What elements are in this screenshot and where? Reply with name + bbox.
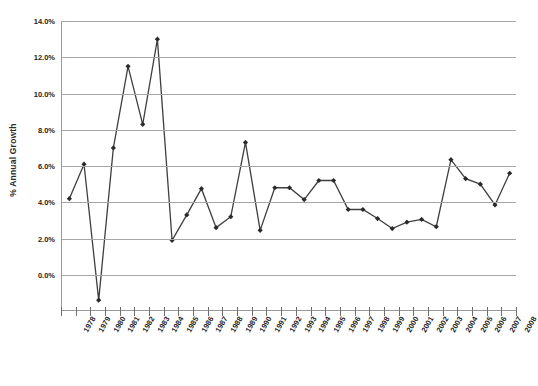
- y-axis-tick-label: 4.0%: [38, 198, 55, 207]
- series-line: [69, 39, 509, 300]
- x-axis-tick-label: 1995: [331, 315, 347, 334]
- y-axis-tick-label: 8.0%: [38, 125, 55, 134]
- gridline: [62, 275, 516, 276]
- x-axis-tick-label: 2008: [522, 315, 538, 334]
- data-point-marker: [199, 186, 204, 191]
- x-axis-tick-label: 1989: [243, 315, 259, 334]
- x-axis-tick-label: 1986: [199, 315, 215, 334]
- x-axis-tick-label: 1984: [170, 315, 186, 334]
- gridline: [62, 94, 516, 95]
- y-axis-tick-label: 12.0%: [34, 53, 55, 62]
- x-axis-tick-label: 1978: [82, 315, 98, 334]
- x-axis-tick-label: 1981: [126, 315, 142, 334]
- x-axis-tick-label: 1980: [111, 315, 127, 334]
- data-point-marker: [434, 224, 439, 229]
- y-axis-tick-label: 2.0%: [38, 234, 55, 243]
- y-axis-tick-labels: 0.0%2.0%4.0%6.0%8.0%10.0%12.0%14.0%: [24, 0, 58, 320]
- x-axis-tick-labels: 1978197919801981198219831984198519861987…: [61, 313, 516, 383]
- y-axis-tick-label: 0.0%: [38, 270, 55, 279]
- plot-area: [61, 21, 516, 311]
- y-axis-tick-label: 10.0%: [34, 89, 55, 98]
- data-point-marker: [67, 196, 72, 201]
- gridline: [62, 57, 516, 58]
- x-axis-tick-label: 1994: [317, 315, 333, 334]
- data-point-marker: [184, 212, 189, 217]
- x-axis-tick-label: 1990: [258, 315, 274, 334]
- data-point-marker: [125, 64, 130, 69]
- gridline: [62, 21, 516, 22]
- data-point-marker: [507, 171, 512, 176]
- y-axis-tick-label: 14.0%: [34, 17, 55, 26]
- y-axis-tick-label: 6.0%: [38, 162, 55, 171]
- x-axis-tick-label: 2007: [507, 315, 523, 334]
- data-point-marker: [243, 140, 248, 145]
- y-axis-title-label: % Annual Growth: [8, 123, 18, 197]
- x-axis-tick-label: 1982: [140, 315, 156, 334]
- x-axis-tick-label: 2001: [419, 315, 435, 334]
- gridline: [62, 202, 516, 203]
- data-point-marker: [272, 185, 277, 190]
- x-axis-tick-label: 1991: [272, 315, 288, 334]
- x-axis-tick-label: 1988: [228, 315, 244, 334]
- x-axis-tick-label: 2005: [478, 315, 494, 334]
- gridline: [62, 239, 516, 240]
- x-axis-tick-label: 1983: [155, 315, 171, 334]
- data-point-marker: [404, 220, 409, 225]
- gridline: [62, 130, 516, 131]
- x-axis-tick-label: 1987: [214, 315, 230, 334]
- x-axis-tick-label: 1979: [96, 315, 112, 334]
- gridline: [62, 166, 516, 167]
- x-axis-tick-label: 1998: [375, 315, 391, 334]
- x-axis-tick-label: 1997: [361, 315, 377, 334]
- data-point-marker: [419, 217, 424, 222]
- y-axis-title: % Annual Growth: [2, 0, 24, 320]
- data-point-marker: [140, 122, 145, 127]
- x-axis-tick-label: 2000: [405, 315, 421, 334]
- x-axis-tick-label: 2006: [493, 315, 509, 334]
- x-axis-tick-label: 1985: [184, 315, 200, 334]
- data-point-marker: [155, 37, 160, 42]
- x-axis-tick-label: 1999: [390, 315, 406, 334]
- x-axis-tick-label: 1996: [346, 315, 362, 334]
- data-point-marker: [346, 207, 351, 212]
- data-point-marker: [111, 145, 116, 150]
- x-axis-tick-label: 1992: [287, 315, 303, 334]
- data-point-marker: [96, 298, 101, 303]
- x-axis-tick-label: 2004: [463, 315, 479, 334]
- x-axis-tick-label: 2002: [434, 315, 450, 334]
- data-point-marker: [258, 228, 263, 233]
- x-axis-tick-label: 1993: [302, 315, 318, 334]
- x-axis-tick-label: 2003: [449, 315, 465, 334]
- data-point-marker: [331, 178, 336, 183]
